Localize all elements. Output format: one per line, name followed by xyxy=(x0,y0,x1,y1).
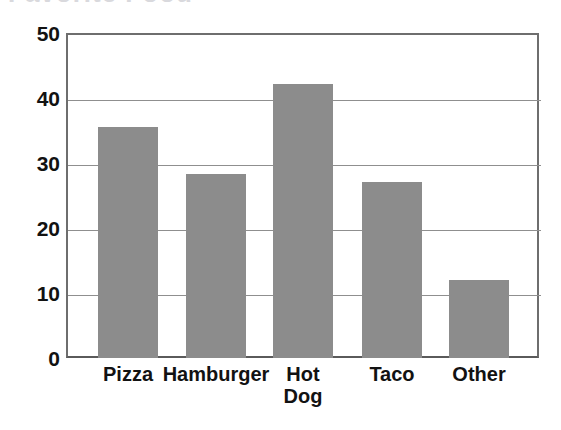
x-tick-hamburger: Hamburger xyxy=(156,363,276,385)
x-tick-hot-dog-line1: Hot xyxy=(286,363,319,385)
bar-chart-figure: Favorite Food 50 40 30 20 10 0 Pizza Ham… xyxy=(0,0,561,430)
y-axis: 50 40 30 20 10 0 xyxy=(0,0,60,430)
bar-other xyxy=(449,280,509,358)
y-tick-10: 10 xyxy=(6,283,60,304)
bar-hamburger xyxy=(186,174,246,358)
x-tick-taco: Taco xyxy=(352,363,432,385)
bar-hot-dog xyxy=(273,84,333,358)
y-tick-20: 20 xyxy=(6,218,60,239)
x-tick-hot-dog: Hot Dog xyxy=(263,363,343,408)
y-tick-40: 40 xyxy=(6,88,60,109)
y-tick-0: 0 xyxy=(6,348,60,369)
y-tick-50: 50 xyxy=(6,23,60,44)
x-tick-other: Other xyxy=(439,363,519,385)
x-tick-hot-dog-line2: Dog xyxy=(284,385,323,407)
x-axis: Pizza Hamburger Hot Dog Taco Other xyxy=(66,363,539,427)
y-tick-30: 30 xyxy=(6,153,60,174)
bar-taco xyxy=(362,182,422,358)
cropped-title-remnant: Favorite Food xyxy=(0,0,561,9)
bar-pizza xyxy=(98,127,158,358)
bars-layer xyxy=(66,33,539,358)
